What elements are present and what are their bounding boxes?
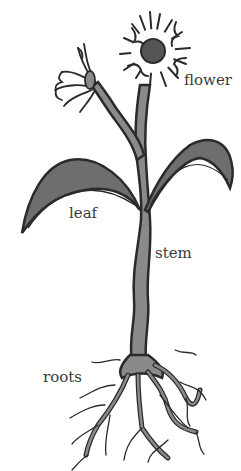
- label-leaf: leaf: [69, 206, 97, 221]
- label-stem: stem: [155, 246, 192, 261]
- label-roots: roots: [43, 370, 82, 385]
- flower-open: [120, 12, 190, 86]
- roots: [70, 350, 206, 470]
- stem: [92, 82, 150, 360]
- leaf-right: [145, 140, 233, 212]
- label-flower: flower: [184, 73, 232, 88]
- flower-wilted: [55, 44, 96, 112]
